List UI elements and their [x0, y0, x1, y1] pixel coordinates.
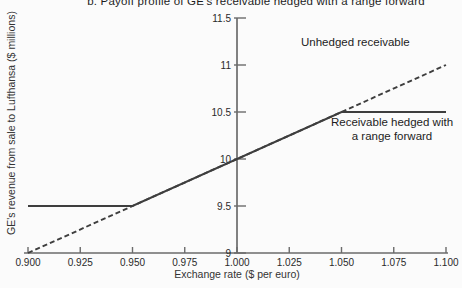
y-axis-tick-label: 11: [221, 60, 232, 71]
annotation-hedged: Receivable hedged with a range forward: [324, 116, 460, 143]
x-axis-tick-label: 1.075: [381, 257, 406, 268]
chart: b. Payoff profile of GE's receivable hed…: [0, 0, 462, 288]
x-axis-tick-label: 1.100: [433, 257, 458, 268]
y-axis-tick-label: 10.5: [212, 107, 232, 118]
annotation-hedged-line2: a range forward: [324, 130, 460, 144]
x-axis-tick-label: 0.925: [68, 257, 93, 268]
x-axis-tick-label: 0.950: [120, 257, 145, 268]
x-axis-tick-label: 0.900: [15, 257, 40, 268]
x-axis-tick-label: 1.050: [329, 257, 354, 268]
y-axis-tick-label: 11.5: [212, 13, 231, 24]
y-axis-tick-label: 9.5: [217, 201, 231, 212]
x-axis-tick-label: 0.975: [172, 257, 197, 268]
annotation-hedged-line1: Receivable hedged with: [324, 116, 460, 130]
x-axis-tick-label: 1.000: [224, 257, 249, 268]
x-axis-title: Exchange rate ($ per euro): [137, 268, 337, 280]
annotation-unhedged: Unhedged receivable: [301, 36, 410, 48]
x-axis-tick-label: 1.025: [277, 257, 302, 268]
y-axis-tick-label: 9: [225, 248, 231, 259]
